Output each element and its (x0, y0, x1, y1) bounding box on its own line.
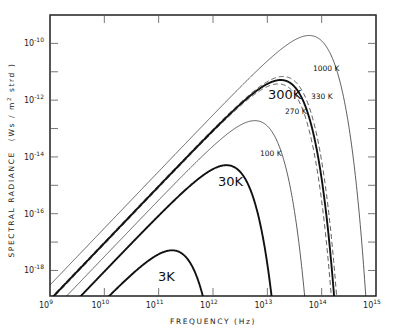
y-axis-title-tail: strd ) (7, 62, 16, 95)
curve-270k (50, 84, 332, 305)
label-100k: 100 K (260, 149, 283, 158)
y-tick-label: 10-14 (24, 150, 44, 162)
y-tick-label: 10-18 (24, 263, 44, 275)
y-tick-label: 10-16 (24, 207, 44, 219)
axis-ticks: 10910101011101210131014101510-1010-1210-… (24, 15, 381, 310)
plot-frame (50, 15, 376, 296)
x-tick-label: 1013 (254, 298, 272, 310)
x-tick-label: 109 (39, 298, 53, 310)
y-tick-label: 10-10 (24, 36, 44, 48)
label-330k: 330 K (311, 92, 334, 101)
svg-text:SPECTRAL RADIANCE (Ws /: SPECTRAL RADIANCE (Ws / m2 strd ) (6, 62, 16, 257)
label-300k: 300K (268, 87, 302, 102)
x-tick-label: 1011 (146, 298, 164, 310)
label-3k: 3K (158, 269, 175, 284)
curve-1000k (50, 35, 366, 302)
y-axis-title: SPECTRAL RADIANCE (Ws / m2 strd ) (6, 62, 16, 257)
label-30k: 30K (218, 174, 244, 189)
blackbody-radiance-chart: 10910101011101210131014101510-1010-1210-… (0, 0, 400, 336)
label-1000k: 1000 K (313, 64, 340, 73)
y-tick-label: 10-12 (24, 93, 44, 105)
y-axis-title-units: (Ws / m (7, 101, 16, 141)
x-tick-label: 1010 (91, 298, 109, 310)
x-tick-label: 1012 (200, 298, 218, 310)
planck-curves (50, 35, 366, 310)
x-axis-title: FREQUENCY (Hz) (170, 317, 256, 326)
y-axis-title-main: SPECTRAL RADIANCE (7, 151, 16, 257)
x-tick-label: 1014 (309, 298, 327, 310)
label-270k: 270 K (285, 107, 308, 116)
x-tick-label: 1015 (363, 298, 381, 310)
